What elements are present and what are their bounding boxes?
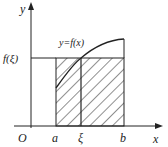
y-axis-arrow-icon	[28, 2, 34, 10]
x-axis-arrow-icon	[155, 123, 163, 129]
a-label: a	[52, 131, 58, 145]
curve-label: y=f(x)	[58, 37, 85, 49]
f-xi-label: f(ξ)	[3, 52, 18, 65]
x-axis-label: x	[152, 132, 159, 146]
xi-label: ξ	[78, 131, 84, 145]
diagram-canvas: y x O a ξ b f(ξ) y=f(x)	[0, 0, 168, 147]
y-axis-label: y	[19, 2, 26, 16]
origin-label: O	[18, 131, 27, 145]
b-label: b	[120, 131, 126, 145]
hatched-rectangle	[56, 58, 124, 126]
